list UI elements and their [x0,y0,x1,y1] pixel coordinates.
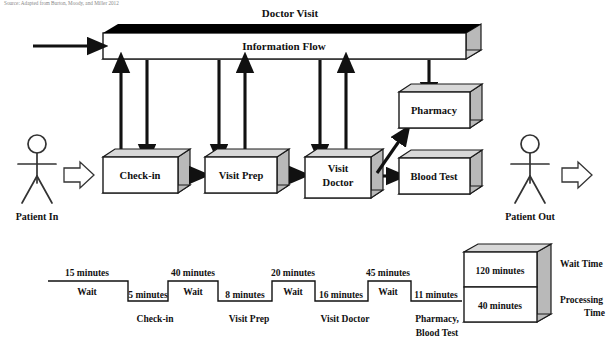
diagram-canvas: Source: Adapted from Burton, Moody, and … [0,0,616,356]
timeline-wait-label-2: Wait [183,287,203,297]
process-box-visit-doctor-label-1: Visit [328,163,349,174]
timeline-caption-3: Visit Doctor [321,314,371,324]
source-note: Source: Adapted from Burton, Moody, and … [4,0,119,6]
timeline-wait-value-3: 20 minutes [271,268,315,278]
process-box-checkin-label: Check-in [120,170,161,181]
timeline-step-checkin: 15 minutes Wait 5 minutes Check-in [65,268,174,324]
legend-wait-value: 120 minutes [476,266,525,276]
timeline-step-pharmacy-bloodtest: 45 minutes Wait 11 minutes Pharmacy, Blo… [366,268,459,338]
process-box-visit-prep[interactable]: Visit Prep [205,149,289,193]
legend-totals-box: 120 minutes 40 minutes [464,244,551,322]
timeline-wait-label-4: Wait [378,287,398,297]
patient-out-label: Patient Out [505,211,555,222]
timeline-wait-value-4: 45 minutes [366,268,410,278]
timeline-caption-1: Check-in [137,314,175,324]
legend-processing-value: 40 minutes [478,301,522,311]
patient-out-block-arrow [562,162,592,188]
timeline-wait-label-1: Wait [77,287,97,297]
patient-in-block-arrow [64,162,94,188]
process-box-visit-prep-label: Visit Prep [219,170,264,181]
process-box-pharmacy[interactable]: Pharmacy [399,84,482,128]
process-box-blood-test-label: Blood Test [411,171,458,182]
process-box-blood-test[interactable]: Blood Test [399,150,482,194]
timeline-process-value-4: 11 minutes [414,290,458,300]
timeline-caption-4b: Blood Test [416,328,459,338]
process-box-checkin[interactable]: Check-in [103,149,190,193]
timeline-caption-2: Visit Prep [229,314,269,324]
timeline-caption-4a: Pharmacy, [415,314,459,324]
information-flow-label: Information Flow [242,40,325,52]
patient-in-figure: Patient In [16,135,59,222]
patient-out-figure: Patient Out [505,135,555,222]
timeline-wait-value-1: 15 minutes [65,268,109,278]
process-box-visit-doctor-label-2: Doctor [323,177,354,188]
timeline-process-value-2: 8 minutes [225,290,265,300]
process-box-visit-doctor[interactable]: Visit Doctor [305,149,383,198]
flow-connector-arrows [121,60,429,157]
timeline-step-visit-prep: 40 minutes Wait 8 minutes Visit Prep [171,268,269,324]
legend-processing-label-2: Time [584,308,605,318]
timeline-step-visit-doctor: 20 minutes Wait 16 minutes Visit Doctor [271,268,370,324]
legend-wait-label: Wait Time [560,259,603,269]
process-box-pharmacy-label: Pharmacy [411,105,458,116]
timeline-wait-value-2: 40 minutes [171,268,215,278]
timeline-process-value-1: 5 minutes [128,290,168,300]
legend-labels: Wait Time Processing Time [560,259,605,318]
legend-processing-label-1: Processing [560,295,603,305]
page-title: Doctor Visit [262,7,319,19]
patient-in-label: Patient In [16,211,59,222]
timeline-wait-label-3: Wait [283,287,303,297]
information-flow-bar: Information Flow [103,24,481,59]
timeline-process-value-3: 16 minutes [319,290,363,300]
